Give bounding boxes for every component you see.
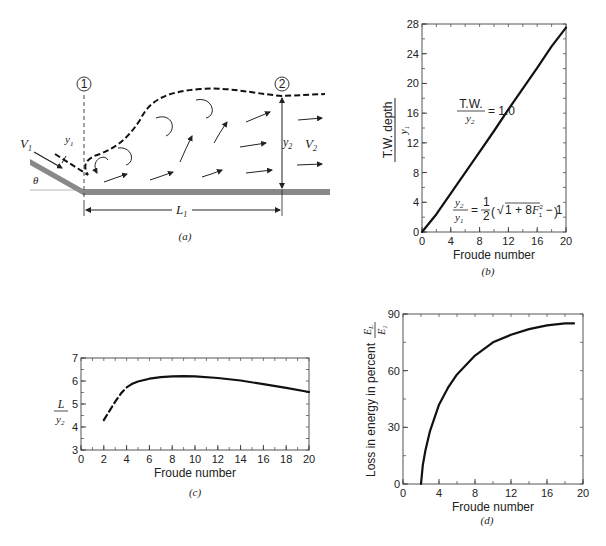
- x-tick-label: 0: [400, 487, 406, 499]
- x-tick-label: 12: [212, 453, 224, 465]
- x-tick-label: 0: [419, 235, 425, 247]
- x-tick-label: 8: [477, 235, 483, 247]
- y-tick-label: 0: [394, 478, 400, 490]
- x-tick-label: 16: [531, 235, 543, 247]
- y-tick-label: 24: [407, 48, 419, 60]
- y-tick-label: 4: [72, 421, 78, 433]
- y-tick-label: 4: [413, 196, 419, 208]
- chart-c: 0246810121416182034567Froude number: [72, 352, 315, 480]
- series-line: [422, 28, 566, 232]
- x-tick-label: 18: [280, 453, 292, 465]
- y-tick-label: 7: [72, 352, 78, 364]
- y-tick-label: 30: [388, 421, 400, 433]
- y-tick-label: 16: [407, 107, 419, 119]
- chart-c-ylabel-num: L: [57, 397, 65, 411]
- chart-b-equation: y2 y1 = 1 2 ( √ 1 + 8F21 − 1 ): [453, 195, 563, 225]
- x-tick-label: 20: [303, 453, 315, 465]
- chart-b-annotation-tw: T.W. y2 = 1.0: [457, 97, 515, 126]
- svg-text:(: (: [491, 205, 495, 219]
- x-tick-label: 8: [169, 453, 175, 465]
- series-line: [104, 384, 133, 420]
- theta-label: θ: [33, 174, 39, 186]
- tw-num: T.W.: [459, 97, 482, 111]
- x-tick-label: 0: [78, 453, 84, 465]
- svg-text:): ): [554, 205, 558, 219]
- series-line: [421, 323, 574, 484]
- y1-label: y1: [64, 133, 73, 148]
- plot-frame: [403, 314, 583, 484]
- x-tick-label: 6: [146, 453, 152, 465]
- panel-a-diagram: 1 2 y2 V2 V1 y1 θ L1: [20, 77, 330, 243]
- x-tick-label: 10: [189, 453, 201, 465]
- x-tick-label: 12: [505, 487, 517, 499]
- x-tick-label: 4: [448, 235, 454, 247]
- y-tick-label: 8: [413, 167, 419, 179]
- tw-den: y2: [465, 112, 475, 126]
- y-tick-label: 3: [72, 444, 78, 456]
- x-tick-label: 8: [472, 487, 478, 499]
- x-tick-label: 20: [560, 235, 572, 247]
- x-tick-label: 16: [541, 487, 553, 499]
- y-tick-label: 5: [72, 398, 78, 410]
- panel-a-caption: (a): [179, 230, 192, 243]
- svg-text:√: √: [497, 203, 504, 217]
- plot-frame: [81, 358, 309, 450]
- x-tick-label: 12: [502, 235, 514, 247]
- x-axis-label: Froude number: [453, 248, 535, 262]
- x-tick-label: 4: [124, 453, 130, 465]
- y-tick-label: 12: [407, 137, 419, 149]
- chart-d-ylabel: Loss in energy in percent: [364, 342, 378, 477]
- x-tick-label: 2: [101, 453, 107, 465]
- x-tick-label: 4: [436, 487, 442, 499]
- svg-text:y1: y1: [454, 211, 463, 225]
- y-tick-label: 0: [413, 226, 419, 238]
- y-tick-label: 90: [388, 308, 400, 320]
- chart-c-ylabel-group: L y2: [54, 397, 68, 427]
- chart-b-ylabel-den: y1: [397, 126, 411, 135]
- channel-floor: [83, 189, 330, 195]
- chart-d-ylabel-group: Loss in energy in percent EL E1: [362, 322, 389, 477]
- svg-text:2: 2: [483, 209, 490, 223]
- svg-text:y2: y2: [454, 196, 464, 210]
- panel-d-caption: (d): [481, 514, 494, 527]
- svg-text:E1: E1: [376, 325, 389, 336]
- chart-b: 0481216200481216202428Froude number: [407, 18, 572, 262]
- y-tick-label: 6: [72, 375, 78, 387]
- y-tick-label: 28: [407, 18, 419, 30]
- chart-d: 0481216200306090Froude number: [388, 308, 589, 514]
- y-tick-label: 20: [407, 77, 419, 89]
- svg-text:=: =: [471, 203, 478, 217]
- y-tick-label: 60: [388, 365, 400, 377]
- series-line: [132, 376, 309, 392]
- v1-label: V1: [20, 136, 32, 153]
- chart-c-ylabel-den: y2: [55, 413, 65, 427]
- figure-canvas: 1 2 y2 V2 V1 y1 θ L1: [0, 0, 606, 546]
- x-axis-label: Froude number: [154, 466, 236, 480]
- tw-eq: = 1.0: [488, 104, 515, 118]
- chart-b-ylabel-num: T.W. depth: [381, 102, 395, 159]
- svg-text:1: 1: [483, 195, 490, 209]
- y2-label: y2: [282, 135, 292, 151]
- svg-text:EL: EL: [362, 325, 375, 336]
- section-2-label: 2: [279, 77, 286, 91]
- x-tick-label: 14: [234, 453, 246, 465]
- panel-b-caption: (b): [482, 265, 495, 278]
- v2-label: V2: [305, 136, 317, 153]
- panel-c-caption: (c): [189, 486, 202, 499]
- section-1-label: 1: [81, 77, 88, 91]
- x-tick-label: 20: [577, 487, 589, 499]
- x-tick-label: 16: [257, 453, 269, 465]
- x-axis-label: Froude number: [452, 500, 534, 514]
